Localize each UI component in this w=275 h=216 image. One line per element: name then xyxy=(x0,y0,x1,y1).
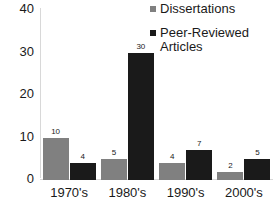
bar-slot: 5 xyxy=(101,10,127,180)
bar[interactable] xyxy=(217,172,243,181)
legend-entry[interactable]: Peer-Reviewed Articles xyxy=(150,26,275,55)
y-axis-line xyxy=(40,8,41,178)
bar-value-label: 4 xyxy=(170,153,174,161)
legend-swatch-icon xyxy=(150,30,156,36)
bar[interactable] xyxy=(43,138,69,181)
x-axis-category-label: 1990's xyxy=(157,186,215,199)
bar[interactable] xyxy=(101,159,127,180)
bar-value-label: 7 xyxy=(197,140,201,148)
bar[interactable] xyxy=(186,150,212,180)
x-axis-category-label: 1970's xyxy=(40,186,98,199)
bar[interactable] xyxy=(70,163,96,180)
bar-slot: 10 xyxy=(43,10,69,180)
bar-group: 104 xyxy=(43,10,96,180)
bar-value-label: 4 xyxy=(80,153,84,161)
bar-slot: 4 xyxy=(70,10,96,180)
x-axis-category-label: 2000's xyxy=(215,186,273,199)
bar[interactable] xyxy=(128,53,154,181)
bar[interactable] xyxy=(159,163,185,180)
bar-value-label: 5 xyxy=(112,149,116,157)
x-axis-category-label: 1980's xyxy=(98,186,156,199)
bar-value-label: 5 xyxy=(255,149,259,157)
y-axis-tick-label: 40 xyxy=(0,2,34,15)
bar-group: 530 xyxy=(101,10,154,180)
legend-swatch-icon xyxy=(150,6,156,12)
chart-legend: DissertationsPeer-Reviewed Articles xyxy=(150,2,275,64)
bar-value-label: 30 xyxy=(136,43,145,51)
bar-value-label: 10 xyxy=(51,128,60,136)
y-axis-tick-label: 30 xyxy=(0,44,34,57)
y-axis-tick-label: 20 xyxy=(0,87,34,100)
y-axis-tick-label: 0 xyxy=(0,172,34,185)
bar-chart: 010203040 1045304725 DissertationsPeer-R… xyxy=(0,0,275,216)
legend-entry[interactable]: Dissertations xyxy=(150,2,275,17)
bar-value-label: 2 xyxy=(228,162,232,170)
legend-label: Peer-Reviewed Articles xyxy=(160,26,249,55)
y-axis-tick-label: 10 xyxy=(0,129,34,142)
legend-label: Dissertations xyxy=(160,2,235,17)
bar[interactable] xyxy=(244,159,270,180)
